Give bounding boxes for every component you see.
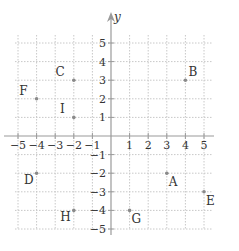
y-tick-label: 2 [99,93,106,106]
point-label: A [168,175,178,189]
point-label: H [60,210,70,224]
point-label: F [19,84,27,98]
x-tick-label: 4 [182,139,189,152]
point-i: I [60,102,76,119]
x-tick-label: −2 [66,139,82,152]
y-tick-label: 3 [99,74,106,87]
y-tick-label: −5 [90,223,106,236]
point-marker [35,171,39,175]
point-label: D [24,173,34,187]
point-label: G [132,212,142,226]
point-label: E [206,194,215,208]
x-tick-label: 5 [201,139,208,152]
x-tick-label: −4 [28,139,44,152]
x-tick-label: −5 [10,139,26,152]
point-g: G [128,209,141,227]
y-tick-label: 4 [99,56,106,69]
grid-lines [15,35,213,229]
point-c: C [56,65,76,82]
point-marker [72,78,76,82]
y-tick-label: −4 [90,204,106,217]
axes [4,12,214,235]
y-tick-label: −3 [90,186,106,199]
point-label: I [60,102,65,116]
point-marker [72,209,76,213]
y-tick-label: 5 [99,37,106,50]
point-f: F [19,84,38,101]
x-tick-label: 3 [163,139,170,152]
y-tick-label: 1 [99,111,106,124]
point-b: B [184,65,198,82]
point-marker [35,97,39,101]
point-label: B [188,65,197,79]
point-label: C [56,65,65,79]
y-tick-label: −1 [90,149,106,162]
y-axis-label: y [113,10,121,24]
y-tick-label: −2 [90,167,106,180]
point-e: E [202,190,215,208]
point-marker [72,116,76,120]
coordinate-plane: −5−4−3−2−11234554321−1−2−3−4−5 ABCDEFGHI… [0,0,239,251]
point-marker [184,78,188,82]
x-tick-label: −3 [47,139,63,152]
x-tick-label: 1 [126,139,133,152]
x-tick-label: 2 [145,139,152,152]
